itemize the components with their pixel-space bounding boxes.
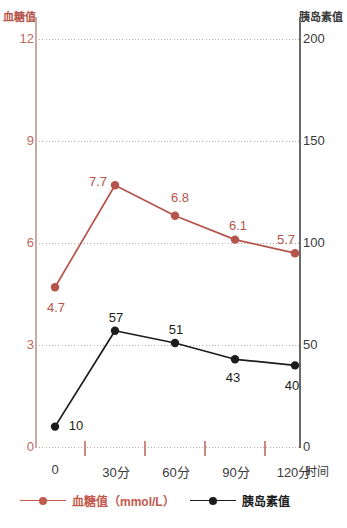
insulin-point-label-2: 51: [169, 322, 183, 337]
right-tick-0: 0: [303, 439, 310, 454]
right-tick-100: 100: [303, 235, 325, 250]
legend-line-insulin: [190, 500, 236, 501]
left-tick-12: 12: [0, 31, 34, 46]
legend-label-insulin: 胰岛素值: [242, 492, 290, 509]
right-tick-50: 50: [303, 337, 317, 352]
legend-dot-insulin: [209, 497, 217, 505]
insulin-point-label-1: 57: [109, 310, 123, 325]
left-tick-3: 3: [0, 337, 34, 352]
insulin-point-label-0: 10: [69, 418, 83, 433]
dual-axis-line-chart: 血糖值 胰岛素值 12 9 6 3 0 200 150 100 50 0 0 3…: [0, 0, 347, 528]
glucose-point-label-2: 6.8: [171, 190, 189, 205]
x-tick-90: 90分: [222, 462, 249, 481]
glucose-point-label-4: 5.7: [277, 232, 295, 247]
right-tick-150: 150: [303, 133, 325, 148]
legend-label-glucose: 血糖值（mmol/L）: [72, 492, 175, 509]
glucose-point-label-3: 6.1: [229, 218, 247, 233]
x-tick-30: 30分: [102, 462, 129, 481]
glucose-point-label-0: 4.7: [47, 300, 65, 315]
insulin-point-label-4: 40: [285, 378, 299, 393]
insulin-point-label-3: 43: [226, 370, 240, 385]
glucose-point-label-1: 7.7: [89, 174, 107, 189]
x-tick-0: 0: [51, 462, 58, 477]
plot-area: [0, 0, 347, 528]
legend-line-glucose: [20, 500, 66, 501]
legend-item-glucose[interactable]: 血糖值（mmol/L）: [20, 488, 175, 512]
legend-item-insulin[interactable]: 胰岛素值: [190, 488, 290, 512]
legend-dot-glucose: [39, 497, 47, 505]
x-tick-60: 60分: [162, 462, 189, 481]
left-tick-9: 9: [0, 133, 34, 148]
left-tick-0: 0: [0, 439, 34, 454]
left-tick-6: 6: [0, 235, 34, 250]
x-axis-title: 时间: [305, 462, 329, 479]
right-tick-200: 200: [303, 31, 325, 46]
chart-legend: 血糖值（mmol/L） 胰岛素值: [0, 488, 347, 512]
